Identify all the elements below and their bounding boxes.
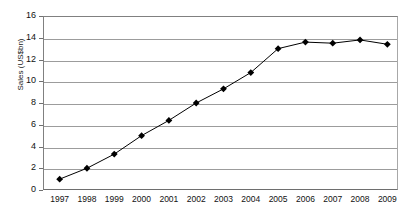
y-axis-tick-label: 0 <box>12 185 36 194</box>
data-point-marker <box>193 100 200 107</box>
y-axis-tick-label: 2 <box>12 163 36 172</box>
data-point-marker <box>138 132 145 139</box>
series-line <box>60 40 388 179</box>
data-point-marker <box>329 40 336 47</box>
data-point-marker <box>220 85 227 92</box>
y-axis-tick-label: 4 <box>12 142 36 151</box>
y-axis-tick-mark <box>39 190 43 191</box>
y-axis-tick-label: 12 <box>12 55 36 64</box>
sales-line-chart: Sales (US$bn) 0246810121416 199719981999… <box>0 0 412 223</box>
y-axis-tick-label: 10 <box>12 76 36 85</box>
data-point-marker <box>302 39 309 46</box>
data-point-marker <box>357 37 364 44</box>
data-point-marker <box>56 176 63 183</box>
data-point-marker <box>111 151 118 158</box>
y-axis-tick-label: 16 <box>12 11 36 20</box>
data-point-marker <box>384 41 391 48</box>
data-point-marker <box>165 117 172 124</box>
sales-series <box>43 16 398 190</box>
x-axis-tick-label: 2009 <box>367 194 407 204</box>
y-axis-tick-label: 14 <box>12 33 36 42</box>
data-point-marker <box>84 165 91 172</box>
y-axis-tick-label: 6 <box>12 120 36 129</box>
y-axis-tick-label: 8 <box>12 98 36 107</box>
